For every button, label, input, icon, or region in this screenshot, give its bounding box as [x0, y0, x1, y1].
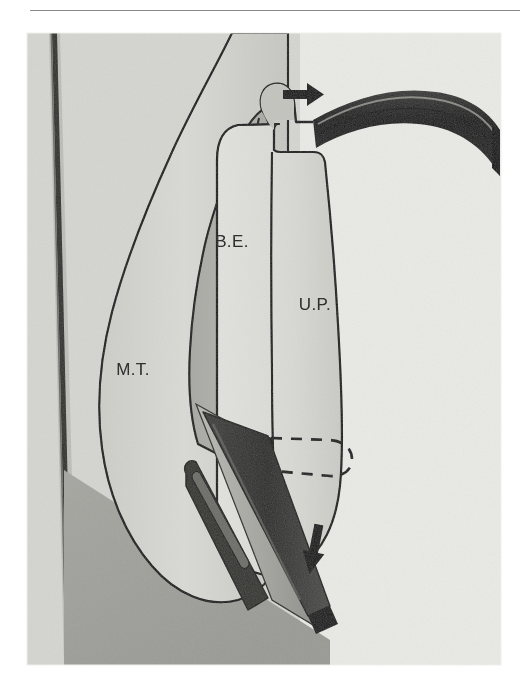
- label-be: B.E.: [215, 232, 249, 251]
- label-up: U.P.: [299, 295, 331, 314]
- label-mt: M.T.: [116, 360, 150, 379]
- probe-cut-end: [492, 124, 500, 176]
- anatomical-illustration: B.E. U.P. M.T.: [0, 0, 529, 681]
- figure-root: B.E. U.P. M.T.: [0, 0, 529, 681]
